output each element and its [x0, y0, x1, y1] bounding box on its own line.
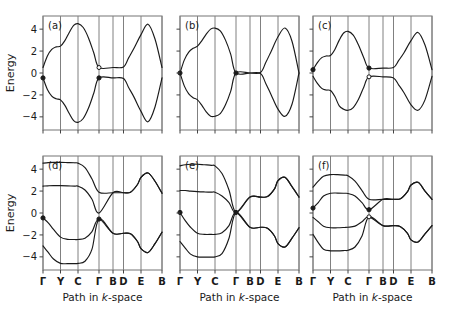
node-marker-filled-1	[367, 66, 371, 70]
node-marker-filled-0	[311, 206, 315, 210]
xtick-label-D-5: D	[256, 276, 264, 287]
panel-tag: (c)	[318, 20, 331, 31]
xtick-label-E-6: E	[275, 276, 282, 287]
figure-canvas: (a)420−2−4(b)(c)(d)420−2−4ΓYCΓBDEBPath i…	[0, 0, 451, 315]
node-marker-filled-0	[41, 216, 45, 220]
ytick-label-0: 0	[31, 68, 37, 79]
node-marker-filled-1	[234, 71, 238, 75]
xtick-label-B-7: B	[428, 276, 436, 287]
xtick-label-Γ-0: Γ	[310, 276, 317, 287]
xtick-label-D-5: D	[389, 276, 397, 287]
panel-tag: (f)	[318, 160, 329, 171]
xtick-label-B-4: B	[109, 276, 117, 287]
xtick-label-C-2: C	[344, 276, 351, 287]
ytick-label-2: 2	[31, 46, 37, 57]
ytick-label-4: 4	[31, 164, 37, 175]
xaxis-title: Path in k-space	[62, 291, 142, 303]
xtick-label-Y-1: Y	[326, 276, 335, 287]
band-structure-figure: (a)420−2−4(b)(c)(d)420−2−4ΓYCΓBDEBPath i…	[0, 0, 451, 315]
node-marker-filled-1	[97, 217, 101, 221]
panel-f: (f)ΓYCΓBDEBPath in k-space	[310, 156, 436, 303]
ytick-label--2: −2	[22, 230, 37, 241]
xaxis-title: Path in k-space	[199, 291, 279, 303]
xtick-label-B-7: B	[158, 276, 166, 287]
xtick-label-C-2: C	[74, 276, 81, 287]
ytick-label--4: −4	[22, 251, 37, 262]
panel-tag: (b)	[185, 20, 199, 31]
yaxis-title: Energy	[4, 53, 17, 92]
node-marker-filled-1	[97, 76, 101, 80]
panel-e: (e)ΓYCΓBDEBPath in k-space	[177, 156, 303, 303]
panel-c: (c)	[310, 16, 433, 134]
ytick-label-2: 2	[31, 186, 37, 197]
xtick-label-Γ-3: Γ	[96, 276, 103, 287]
xtick-label-Y-1: Y	[56, 276, 65, 287]
yaxis-title: Energy	[4, 193, 17, 232]
xtick-label-Γ-3: Γ	[366, 276, 373, 287]
ytick-label--4: −4	[22, 111, 37, 122]
node-marker-open-2	[97, 66, 101, 70]
xtick-label-B-4: B	[246, 276, 254, 287]
panel-b: (b)	[177, 16, 300, 134]
xtick-label-E-6: E	[138, 276, 145, 287]
xtick-label-B-7: B	[295, 276, 303, 287]
panel-tag: (d)	[48, 160, 62, 171]
xaxis-title: Path in k-space	[332, 291, 412, 303]
xtick-label-D-5: D	[119, 276, 127, 287]
node-marker-filled-1	[367, 208, 371, 212]
panel-tag: (e)	[185, 160, 199, 171]
node-marker-open-2	[367, 215, 371, 219]
node-marker-filled-0	[178, 210, 182, 214]
panel-d: (d)420−2−4ΓYCΓBDEBPath in k-space	[22, 156, 166, 303]
xtick-label-Γ-0: Γ	[40, 276, 47, 287]
xtick-label-C-2: C	[211, 276, 218, 287]
xtick-label-Γ-3: Γ	[233, 276, 240, 287]
node-marker-filled-1	[234, 210, 238, 214]
xtick-label-E-6: E	[408, 276, 415, 287]
node-marker-open-2	[367, 75, 371, 79]
ytick-label--2: −2	[22, 90, 37, 101]
ytick-label-0: 0	[31, 208, 37, 219]
xtick-label-B-4: B	[379, 276, 387, 287]
xtick-label-Y-1: Y	[193, 276, 202, 287]
ytick-label-4: 4	[31, 24, 37, 35]
panel-a: (a)420−2−4	[22, 16, 162, 134]
panel-tag: (a)	[48, 20, 62, 31]
node-marker-filled-0	[311, 68, 315, 72]
xtick-label-Γ-0: Γ	[177, 276, 184, 287]
node-marker-filled-0	[41, 76, 45, 80]
